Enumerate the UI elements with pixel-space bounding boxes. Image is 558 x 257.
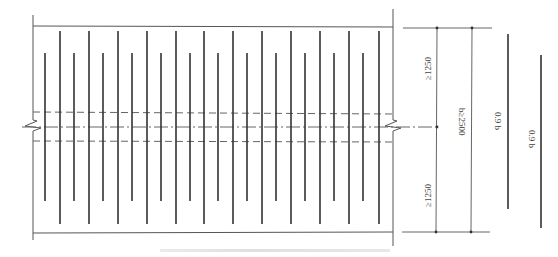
layout-guides xyxy=(22,112,437,142)
dim-label-upper: ≥1250 xyxy=(423,57,433,80)
dim-label-total: b≥2500 xyxy=(457,108,467,136)
top-edge xyxy=(33,26,393,27)
bottom-edge xyxy=(33,232,393,233)
bar-length-label-2: 0.9 b xyxy=(527,130,537,149)
dashed-line-upper xyxy=(33,112,393,114)
dim-line-segments xyxy=(436,28,437,232)
dim-label-lower: ≥1250 xyxy=(423,184,433,207)
dim-line-total xyxy=(471,28,472,232)
panel-outline xyxy=(25,9,401,246)
dimension-lines xyxy=(402,28,492,232)
figure-caption-illegible xyxy=(160,249,390,252)
bar-length-label-1: 0.9 b xyxy=(493,112,503,131)
rebar-layout-diagram: ≥1250 ≥1250 b≥2500 0.9 b 0.9 b xyxy=(0,0,558,257)
dashed-line-lower xyxy=(33,141,393,142)
